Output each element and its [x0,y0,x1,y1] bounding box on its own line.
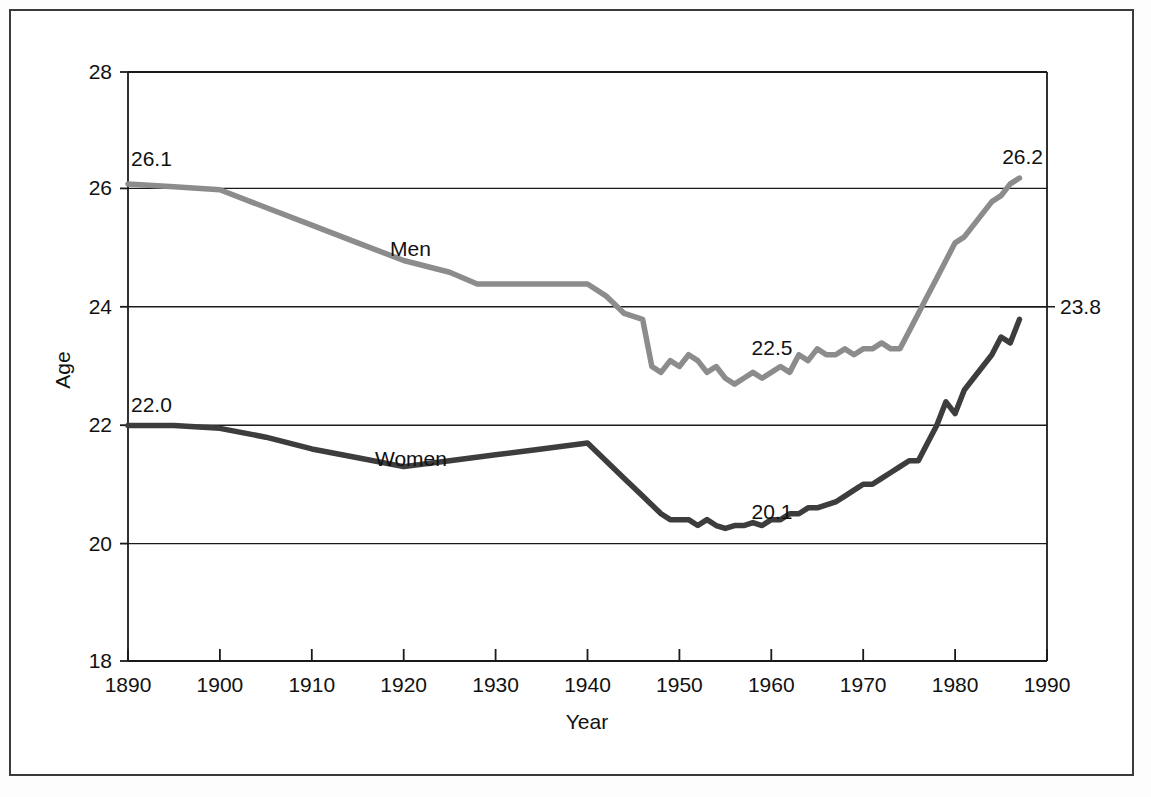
value-label-men-end: 26.2 [1002,145,1043,168]
x-tick-label-1960: 1960 [748,673,795,696]
x-tick-label-1920: 1920 [380,673,427,696]
y-tick-label-28: 28 [89,60,112,83]
x-tick-label-1890: 1890 [105,673,152,696]
line-chart: 18 20 22 24 26 28 1890 1900 1910 1920 19… [0,0,1151,797]
x-tick-label-1970: 1970 [840,673,887,696]
x-tick-label-1980: 1980 [932,673,979,696]
y-tick-label-22: 22 [89,413,112,436]
x-tick-label-1940: 1940 [564,673,611,696]
figure-canvas: 18 20 22 24 26 28 1890 1900 1910 1920 19… [0,0,1151,797]
series-label-women: Women [375,447,447,470]
x-axis-tick-labels: 1890 1900 1910 1920 1930 1940 1950 1960 … [105,673,1071,696]
x-axis-title: Year [566,710,608,733]
x-tick-label-1900: 1900 [197,673,244,696]
y-axis-title: Age [51,351,74,388]
value-label-men-start: 26.1 [131,147,172,170]
value-label-women-mid: 20.1 [752,500,793,523]
x-tick-label-1950: 1950 [656,673,703,696]
value-label-women-start: 22.0 [131,393,172,416]
y-tick-label-20: 20 [89,532,112,555]
x-tick-label-1910: 1910 [288,673,335,696]
y-tick-label-26: 26 [89,176,112,199]
y-tick-label-18: 18 [89,649,112,672]
y-axis-tick-labels: 18 20 22 24 26 28 [89,60,113,672]
y-tick-label-24: 24 [89,295,113,318]
y-axis-ticks [120,72,128,661]
plot-area-background [128,72,1047,661]
value-label-women-end: 23.8 [1060,295,1101,318]
series-label-men: Men [390,237,431,260]
value-label-men-mid: 22.5 [752,336,793,359]
x-tick-label-1930: 1930 [472,673,519,696]
x-tick-label-1990: 1990 [1024,673,1071,696]
